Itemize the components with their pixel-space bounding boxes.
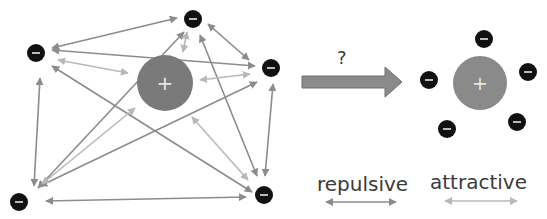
nucleus-right: + <box>453 56 507 110</box>
electron-r4 <box>508 113 526 131</box>
svg-text:+: + <box>157 71 174 95</box>
legend-attractive-label: attractive <box>430 172 527 192</box>
nucleus-left: + <box>137 55 193 111</box>
electron-1 <box>27 44 45 62</box>
attractive-arrows <box>42 32 250 184</box>
electron-r1 <box>475 30 493 48</box>
electron-4 <box>10 193 28 211</box>
electron-5 <box>255 186 273 204</box>
electron-2 <box>184 10 202 28</box>
electron-r5 <box>438 120 456 138</box>
electron-r2 <box>420 71 438 89</box>
electron-3 <box>262 59 280 77</box>
question-mark-label: ? <box>337 47 347 68</box>
repulsive-arrows <box>34 18 273 201</box>
svg-text:+: + <box>472 72 488 94</box>
legend-repulsive-label: repulsive <box>317 174 408 194</box>
transition-arrow-icon <box>302 67 402 97</box>
electron-r3 <box>519 63 537 81</box>
